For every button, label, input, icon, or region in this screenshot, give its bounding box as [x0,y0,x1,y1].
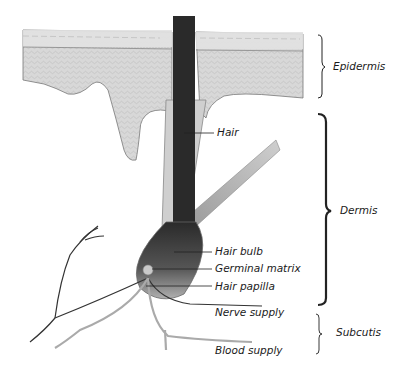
brace-subcutis [316,314,322,354]
label-dermis: Dermis [340,204,377,216]
label-germinal-matrix: Germinal matrix [215,262,301,274]
layer-braces [316,35,331,354]
label-nerve-supply: Nerve supply [215,306,284,318]
label-subcutis: Subcutis [336,326,381,338]
label-blood-supply: Blood supply [215,344,283,356]
label-hair-papilla: Hair papilla [215,280,275,292]
brace-epidermis [318,35,325,98]
label-hair-bulb: Hair bulb [215,245,263,257]
germinal-matrix [143,265,153,275]
label-epidermis: Epidermis [333,60,385,72]
hair-follicle-diagram [0,0,408,378]
hair-bulb [136,222,202,299]
hair-shaft [173,16,195,226]
epidermis-layer [23,30,303,160]
brace-dermis [318,114,331,305]
label-hair: Hair [217,126,239,138]
arrector-pili-muscle [186,140,280,228]
